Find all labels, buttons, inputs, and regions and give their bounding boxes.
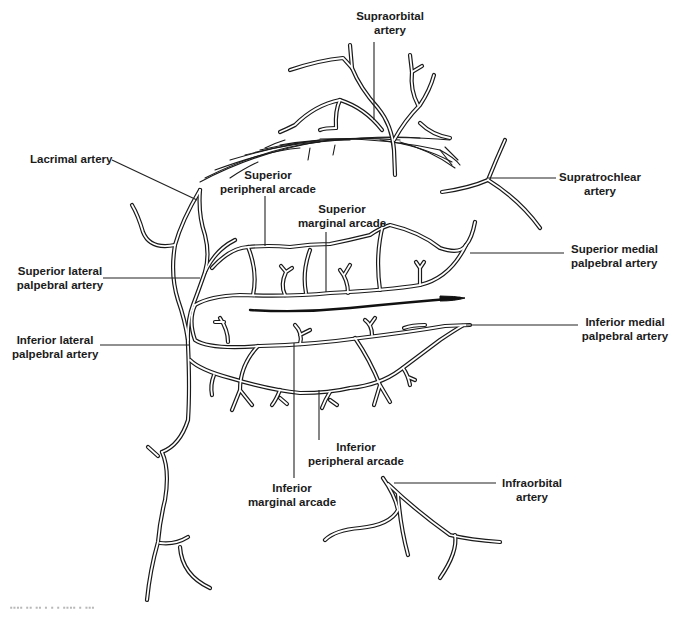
artery-illustration [0,0,677,618]
label-inferior-lateral-palpebral-artery: Inferior lateral palpebral artery [12,334,98,361]
label-superior-lateral-palpebral-artery: Superior lateral palpebral artery [14,265,106,292]
label-infraorbital-artery: Infraorbital artery [500,477,564,504]
label-lacrimal-artery: Lacrimal artery [30,153,112,167]
eyelid-margin [250,296,465,311]
eyelid-artery-diagram: Supraorbital artery Lacrimal artery Supr… [0,0,677,618]
label-superior-marginal-arcade: Superior marginal arcade [292,203,392,230]
label-supraorbital-artery: Supraorbital artery [330,10,450,37]
label-inferior-marginal-arcade: Inferior marginal arcade [244,482,340,509]
label-superior-medial-palpebral-artery: Superior medial palpebral artery [571,243,658,270]
label-inferior-medial-palpebral-artery: Inferior medial palpebral artery [580,316,670,343]
label-supratrochlear-artery: Supratrochlear artery [550,171,650,198]
label-inferior-peripheral-arcade: Inferior peripheral arcade [306,441,406,468]
label-superior-peripheral-arcade: Superior peripheral arcade [216,169,320,196]
leader-lacrimal [112,160,197,200]
figure-caption: ▪▪▪▪ ▪▪ ▪▪ ▪ ▪ ▪ ▪▪▪▪ ▪ ▪▪▪ [10,603,95,612]
